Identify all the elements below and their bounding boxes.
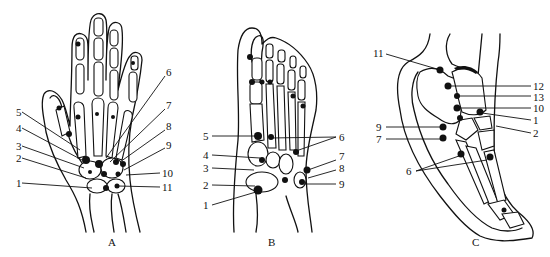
phalanx: [110, 48, 118, 68]
lesion-dot: [82, 156, 90, 164]
lesion-dot: [268, 80, 273, 85]
lesion-dot: [487, 154, 494, 161]
lesion-dot: [111, 115, 115, 119]
lesion-dot: [440, 135, 447, 142]
metacarpal: [92, 98, 104, 156]
phalanx: [250, 82, 262, 104]
lesion-dot: [260, 80, 265, 85]
tarsal: [279, 154, 293, 174]
caption-b: B: [268, 236, 275, 248]
label-a-3: 3: [16, 140, 22, 152]
label-a-6: 6: [166, 66, 172, 78]
phalanx: [290, 56, 296, 68]
phalanx: [278, 50, 285, 62]
metatarsal: [288, 92, 296, 150]
phalanx: [300, 66, 306, 78]
leader-line: [386, 54, 437, 69]
label-b-7: 7: [339, 150, 345, 162]
label-c-1: 1: [533, 114, 539, 126]
lesion-dot: [247, 54, 253, 60]
lesion-dot: [57, 106, 62, 111]
leader-line: [126, 173, 160, 175]
caption-a: A: [108, 236, 116, 248]
label-a-9: 9: [166, 139, 172, 151]
phalanx: [266, 60, 273, 82]
leader-line: [308, 170, 336, 178]
lesion-dot: [76, 42, 81, 47]
label-b-1: 1: [203, 199, 209, 211]
label-b-4: 4: [203, 149, 209, 161]
lesion-dot: [457, 115, 463, 121]
label-c-9: 9: [376, 121, 382, 133]
label-b-2: 2: [203, 179, 209, 191]
phalanx: [94, 18, 103, 36]
phalanx: [266, 44, 273, 58]
lesion-dot: [101, 171, 107, 177]
phalanx: [298, 80, 305, 100]
anatomy-figure: 5 4 3 2 1 6 7 8 9 10 11 A: [0, 0, 550, 257]
phalanx: [94, 62, 103, 96]
lesion-dot: [95, 112, 99, 116]
phalanx: [110, 70, 118, 100]
lesion-dot: [254, 132, 262, 140]
lesion-dot: [249, 79, 255, 85]
phalanx: [277, 64, 284, 84]
lesion-dot: [268, 134, 274, 140]
phalanx: [129, 72, 137, 102]
lesion-dot: [282, 177, 288, 183]
label-a-7: 7: [166, 99, 172, 111]
label-b-3: 3: [203, 162, 209, 174]
phalanx: [288, 70, 295, 90]
lesion-dot: [95, 160, 103, 168]
leader-line: [212, 168, 254, 170]
label-c-7: 7: [376, 133, 382, 145]
label-a-5: 5: [16, 106, 22, 118]
leader-line: [308, 160, 336, 170]
lesion-dot: [113, 159, 119, 165]
lesion-dot: [437, 67, 444, 74]
lesion-dot: [502, 208, 507, 213]
lesion-dot: [116, 172, 121, 177]
label-b-5: 5: [203, 130, 209, 142]
leader-line: [22, 146, 84, 168]
label-a-11: 11: [162, 181, 173, 193]
lesion-dot: [254, 186, 263, 195]
phalanx: [110, 30, 118, 46]
label-b-9: 9: [339, 178, 345, 190]
label-a-1: 1: [16, 177, 22, 189]
leader-line: [22, 128, 82, 160]
label-b-8: 8: [339, 162, 345, 174]
phalanx: [94, 38, 103, 60]
label-a-2: 2: [16, 152, 22, 164]
leader-line: [124, 148, 165, 170]
phalanx: [252, 58, 262, 80]
leader-line: [22, 183, 92, 188]
leader-line: [22, 158, 86, 178]
tarsal: [456, 118, 478, 140]
label-b-6: 6: [339, 131, 345, 143]
leader-line: [22, 112, 80, 150]
tarsal: [478, 130, 494, 150]
caption-c: C: [472, 236, 479, 248]
panel-b-foot-dorsal: 5 4 3 2 1 6 7 8 9 B: [203, 28, 345, 248]
panel-c-foot-lateral: 11 12 13 10 1 2 9 7 6 C: [373, 34, 545, 248]
leader-line: [496, 126, 531, 133]
lesion-dot: [291, 94, 296, 99]
lesion-dot: [76, 115, 81, 120]
lesion-dot: [440, 124, 447, 131]
lesion-dot: [477, 109, 484, 116]
tarsal: [248, 142, 268, 166]
phalanx: [76, 38, 84, 60]
tarsal: [266, 152, 280, 168]
lesion-dot: [88, 170, 92, 174]
lesion-dot: [66, 131, 72, 137]
label-a-4: 4: [16, 122, 22, 134]
label-c-11: 11: [373, 47, 384, 59]
label-c-6: 6: [406, 165, 412, 177]
panel-a-hand: 5 4 3 2 1 6 7 8 9 10 11 A: [16, 14, 174, 248]
label-c-2: 2: [533, 127, 539, 139]
lesion-dot: [304, 167, 311, 174]
phalanx: [76, 64, 84, 94]
lesion-dot: [301, 104, 306, 109]
lesion-dot: [131, 61, 135, 65]
